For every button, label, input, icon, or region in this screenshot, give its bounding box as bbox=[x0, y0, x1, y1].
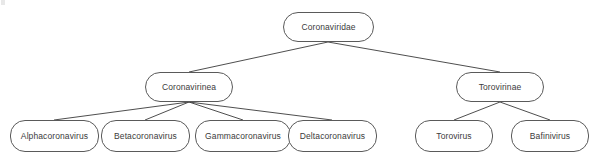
tree-node-label: Deltacoronavirus bbox=[300, 132, 365, 141]
tree-node-label: Alphacoronavirus bbox=[21, 132, 88, 141]
tree-edge bbox=[189, 42, 328, 72]
tree-edge bbox=[189, 102, 332, 120]
tree-node-label: Coronaviridae bbox=[301, 23, 355, 32]
tree-node-coronaviridae[interactable]: Coronaviridae bbox=[283, 12, 374, 42]
tree-node-label: Gammacoronavirus bbox=[205, 132, 281, 141]
tree-node-label: Betacoronavirus bbox=[114, 132, 177, 141]
tree-node-label: Coronavirinea bbox=[162, 83, 216, 92]
tree-node-coronavirinea[interactable]: Coronavirinea bbox=[145, 72, 233, 102]
tree-node-label: Torovirus bbox=[436, 132, 471, 141]
tree-node-gammacoronavirus[interactable]: Gammacoronavirus bbox=[195, 120, 291, 152]
tree-node-deltacoronavirus[interactable]: Deltacoronavirus bbox=[288, 120, 377, 152]
taxonomy-tree-diagram: CoronaviridaeCoronavirineaTorovirinaeAlp… bbox=[0, 0, 598, 164]
tree-node-bafinivirus[interactable]: Bafinivirus bbox=[511, 120, 589, 152]
tree-edge bbox=[500, 102, 550, 120]
tree-node-label: Bafinivirus bbox=[530, 132, 570, 141]
tree-node-alphacoronavirus[interactable]: Alphacoronavirus bbox=[10, 120, 99, 152]
corner-artifact bbox=[1, 0, 5, 5]
tree-node-label: Torovirinae bbox=[479, 83, 522, 92]
tree-edge bbox=[54, 102, 189, 120]
tree-edge bbox=[454, 102, 500, 120]
tree-edge bbox=[328, 42, 500, 72]
tree-node-torovirinae[interactable]: Torovirinae bbox=[456, 72, 544, 102]
tree-node-torovirus[interactable]: Torovirus bbox=[415, 120, 493, 152]
tree-node-betacoronavirus[interactable]: Betacoronavirus bbox=[101, 120, 190, 152]
tree-edge bbox=[189, 102, 243, 120]
